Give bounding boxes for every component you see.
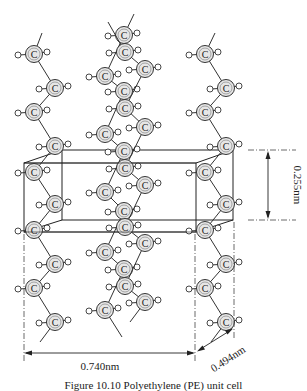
hydrogen-atom xyxy=(236,199,242,205)
carbon-label: C xyxy=(122,47,129,58)
hydrogen-atom xyxy=(215,283,221,289)
hydrogen-atom xyxy=(126,300,132,306)
hydrogen-atom xyxy=(155,122,161,128)
carbon-label: C xyxy=(142,64,149,75)
carbon-label: C xyxy=(31,225,38,236)
figure-caption: Figure 10.10 Polyethylene (PE) unit cell xyxy=(0,379,307,391)
hydrogen-atom xyxy=(44,167,50,173)
carbon-label: C xyxy=(202,49,209,60)
hydrogen-atom xyxy=(186,52,192,58)
carbon-label: C xyxy=(102,305,109,316)
carbon-label: C xyxy=(142,180,149,191)
hydrogen-atom xyxy=(115,71,121,77)
carbon-label: C xyxy=(121,264,128,275)
carbon-label: C xyxy=(121,86,128,97)
hydrogen-atom xyxy=(215,49,221,55)
hydrogen-atom xyxy=(86,74,92,80)
carbon-label: C xyxy=(142,297,149,308)
hydrogen-atom xyxy=(126,241,132,247)
hydrogen-atom xyxy=(207,86,213,92)
hydrogen-atom xyxy=(155,297,161,303)
hydrogen-atom xyxy=(15,228,21,234)
dimension-c-axis: 0.255nm xyxy=(248,150,304,220)
carbon-label: C xyxy=(223,141,230,152)
hydrogen-atom xyxy=(65,259,71,265)
polymer-chains: CCCCCCCCCCCCCCCCCCCCCCCCCCCCCCCCCCCCCCCC xyxy=(15,14,242,342)
hydrogen-atom xyxy=(155,238,161,244)
hydrogen-atom xyxy=(65,199,71,205)
carbon-label: C xyxy=(223,259,230,270)
hydrogen-atom xyxy=(65,83,71,89)
hydrogen-atom xyxy=(44,49,50,55)
hydrogen-atom xyxy=(36,262,42,268)
dimension-a-label: 0.740nm xyxy=(81,360,120,372)
hydrogen-atom xyxy=(207,202,213,208)
hydrogen-atom xyxy=(115,247,121,253)
hydrogen-atom xyxy=(207,144,213,150)
hydrogen-atom xyxy=(105,209,111,215)
carbon-label: C xyxy=(102,129,109,140)
hydrogen-atom xyxy=(236,317,242,323)
hydrogen-atom xyxy=(186,110,192,116)
hydrogen-atom xyxy=(207,320,213,326)
hydrogen-atom xyxy=(106,225,112,231)
hydrogen-atom xyxy=(126,125,132,131)
carbon-label: C xyxy=(52,199,59,210)
carbon-label: C xyxy=(31,49,38,60)
hydrogen-atom xyxy=(105,89,111,95)
right-chain: CCCCCCCCCC xyxy=(186,33,242,342)
carbon-label: C xyxy=(31,167,38,178)
carbon-label: C xyxy=(142,122,149,133)
hydrogen-atom xyxy=(135,281,141,287)
carbon-label: C xyxy=(142,238,149,249)
hydrogen-atom xyxy=(36,202,42,208)
carbon-label: C xyxy=(223,83,230,94)
carbon-label: C xyxy=(202,167,209,178)
hydrogen-atom xyxy=(86,308,92,314)
hydrogen-atom xyxy=(115,305,121,311)
hydrogen-atom xyxy=(105,149,111,155)
hydrogen-atom xyxy=(36,144,42,150)
hydrogen-atom xyxy=(106,106,112,112)
carbon-label: C xyxy=(52,83,59,94)
left-chain: CCCCCCCCCC xyxy=(15,33,71,342)
hydrogen-atom xyxy=(135,47,141,53)
carbon-label: C xyxy=(121,30,128,41)
carbon-label: C xyxy=(223,199,230,210)
hydrogen-atom xyxy=(215,225,221,231)
hydrogen-atom xyxy=(65,141,71,147)
hydrogen-atom xyxy=(44,107,50,113)
hydrogen-atom xyxy=(36,86,42,92)
hydrogen-atom xyxy=(155,180,161,186)
carbon-label: C xyxy=(223,317,230,328)
hydrogen-atom xyxy=(44,225,50,231)
hydrogen-atom xyxy=(36,320,42,326)
carbon-label: C xyxy=(202,283,209,294)
dimension-c-label: 0.255nm xyxy=(292,166,304,205)
hydrogen-atom xyxy=(236,83,242,89)
hydrogen-atom xyxy=(86,132,92,138)
hydrogen-atom xyxy=(15,110,21,116)
hydrogen-atom xyxy=(215,107,221,113)
carbon-label: C xyxy=(31,283,38,294)
dimension-b-label: 0.494nm xyxy=(208,343,247,374)
hydrogen-atom xyxy=(65,317,71,323)
hydrogen-atom xyxy=(186,170,192,176)
carbon-label: C xyxy=(52,317,59,328)
carbon-label: C xyxy=(202,107,209,118)
carbon-label: C xyxy=(102,247,109,258)
hydrogen-atom xyxy=(236,259,242,265)
hydrogen-atom xyxy=(207,262,213,268)
hydrogen-atom xyxy=(106,50,112,56)
hydrogen-atom xyxy=(215,167,221,173)
carbon-label: C xyxy=(122,163,129,174)
carbon-label: C xyxy=(122,103,129,114)
hydrogen-atom xyxy=(106,166,112,172)
hydrogen-atom xyxy=(105,33,111,39)
hydrogen-atom xyxy=(15,52,21,58)
hydrogen-atom xyxy=(86,190,92,196)
hydrogen-atom xyxy=(44,283,50,289)
hydrogen-atom xyxy=(126,183,132,189)
hydrogen-atom xyxy=(135,163,141,169)
carbon-label: C xyxy=(121,146,128,157)
